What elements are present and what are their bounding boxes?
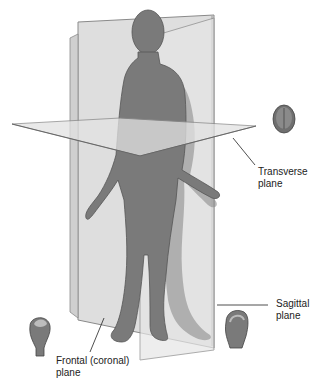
anatomical-planes-diagram bbox=[0, 0, 321, 384]
transverse-plane-label: Transverse plane bbox=[258, 166, 308, 190]
transverse-plane bbox=[12, 118, 256, 156]
frontal-label-line2: plane bbox=[56, 367, 129, 379]
sagittal-label-line1: Sagittal bbox=[276, 298, 309, 310]
transverse-label-line2: plane bbox=[258, 178, 308, 190]
transverse-label-line1: Transverse bbox=[258, 166, 308, 178]
transverse-leader-line bbox=[233, 138, 255, 165]
transverse-head-icon bbox=[273, 105, 295, 133]
frontal-plane-label: Frontal (coronal) plane bbox=[56, 355, 129, 379]
frontal-head-icon bbox=[30, 318, 50, 356]
sagittal-label-line2: plane bbox=[276, 310, 309, 322]
frontal-label-line1: Frontal (coronal) bbox=[56, 355, 129, 367]
sagittal-head-icon bbox=[225, 310, 248, 348]
sagittal-plane-label: Sagittal plane bbox=[276, 298, 309, 322]
